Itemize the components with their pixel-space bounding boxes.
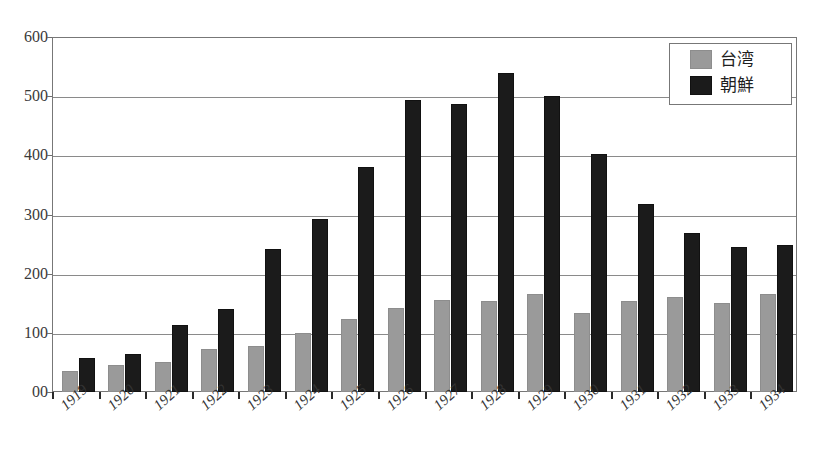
legend-item-taiwan: 台湾 [690, 47, 754, 71]
bar-taiwan-1929 [527, 294, 543, 392]
bar-korea-1923 [265, 249, 281, 392]
y-axis-labels: 60050040030020010000 [0, 0, 48, 450]
bar-korea-1926 [405, 100, 421, 392]
bar-taiwan-1928 [481, 301, 497, 392]
chart-legend: 台湾 朝鮮 [669, 43, 792, 105]
y-axis-tick-label: 100 [2, 325, 48, 341]
bar-korea-1924 [312, 219, 328, 392]
bar-taiwan-1926 [388, 308, 404, 392]
y-axis-tick-label: 400 [2, 147, 48, 163]
bar-taiwan-1925 [341, 319, 357, 392]
y-axis-tick-label: 500 [2, 88, 48, 104]
legend-item-korea: 朝鮮 [690, 73, 754, 97]
bar-korea-1930 [591, 154, 607, 392]
bar-korea-1928 [498, 73, 514, 393]
bar-korea-1933 [731, 247, 747, 392]
bar-korea-1927 [451, 104, 467, 392]
bar-taiwan-1932 [667, 297, 683, 392]
legend-swatch-taiwan [690, 50, 712, 69]
bar-korea-1934 [777, 245, 793, 392]
chart-title-remnant [0, 0, 815, 8]
bar-taiwan-1930 [574, 313, 590, 392]
legend-label-taiwan: 台湾 [720, 50, 754, 69]
bar-korea-1929 [544, 96, 560, 392]
bar-korea-1931 [638, 204, 654, 392]
legend-label-korea: 朝鮮 [720, 76, 754, 95]
bar-korea-1925 [358, 167, 374, 392]
bar-taiwan-1931 [621, 301, 637, 392]
y-axis-tick-label: 600 [2, 29, 48, 45]
bar-taiwan-1924 [295, 333, 311, 392]
bar-chart: 60050040030020010000 1919192019211922192… [0, 0, 815, 450]
y-axis-tick-label: 200 [2, 266, 48, 282]
bar-taiwan-1927 [434, 300, 450, 392]
x-axis-labels: 1919192019211922192319241925192619271928… [52, 396, 797, 450]
bar-korea-1932 [684, 233, 700, 392]
y-axis-tick-label: 300 [2, 207, 48, 223]
bar-taiwan-1933 [714, 303, 730, 392]
bar-korea-1921 [172, 325, 188, 392]
bar-taiwan-1934 [760, 294, 776, 392]
legend-swatch-korea [690, 76, 712, 95]
y-axis-tick-label: 00 [2, 384, 48, 400]
bar-korea-1922 [218, 309, 234, 392]
